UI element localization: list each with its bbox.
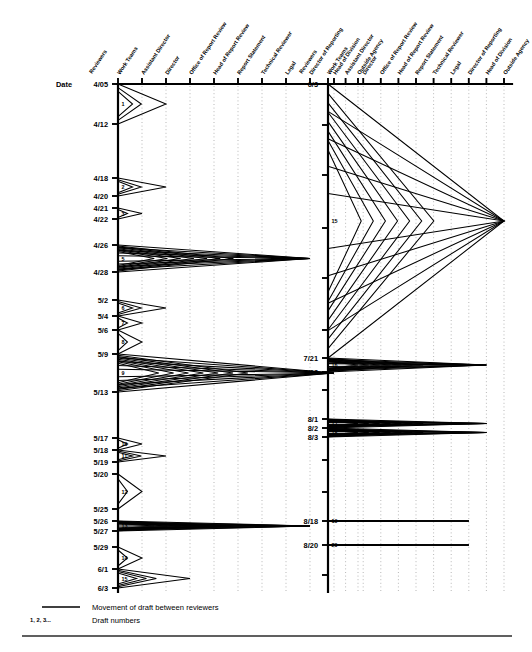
date-label: 6/1 [98,565,108,574]
draft-number-11: 11 [122,453,128,459]
chart-legend: Movement of draft between reviewers1, 2,… [22,603,512,636]
date-label: 6/3 [308,80,318,89]
column-header-work-teams: Work Teams [116,45,139,75]
column-header-director-of-reporting: Director of Reporting [467,26,503,76]
date-axis-title: Date [56,80,72,89]
draft-number-19: 19 [332,518,338,524]
date-label: 5/29 [94,543,108,552]
draft-number-12: 12 [122,489,128,495]
date-label: 5/4 [98,312,109,321]
date-label: 4/20 [94,192,108,201]
date-label: 5/17 [94,434,108,443]
date-label: 8/1 [308,415,318,424]
date-label: 5/2 [98,296,108,305]
date-label: 5/25 [94,505,108,514]
date-label: 8/18 [304,517,318,526]
draft-number-5: 5 [122,256,125,262]
date-label: 7/21 [304,354,318,363]
date-label: 8/20 [304,541,318,550]
figure-canvas: Work TeamsAssistant DirectorDirectorOffi… [0,0,532,652]
date-label: 5/9 [98,350,108,359]
date-label: 4/18 [94,174,108,183]
draft-number-13: 13 [122,523,128,529]
date-label: 5/13 [94,388,108,397]
draft-number-1: 1 [122,101,125,107]
date-label: 4/21 [94,204,108,213]
legend-numbers-swatch: 1, 2, 3... [30,617,51,623]
date-label: 7/23 [304,368,318,377]
column-header-legal: Legal [449,60,462,76]
draft-number-17: 17 [332,421,338,427]
draft-flow-inner [328,93,434,348]
draft-number-7: 7 [122,320,125,326]
draft-number-8: 8 [122,339,125,345]
panel-left: Work TeamsAssistant DirectorDirectorOffi… [56,20,385,592]
draft-number-2: 2 [122,184,125,190]
column-header-director: Director [164,54,181,76]
draft-number-16: 16 [332,362,338,368]
column-header-legal: Legal [284,60,297,76]
date-label: 5/6 [98,326,108,335]
date-label: 6/3 [98,584,108,593]
draft-movement-chart: Work TeamsAssistant DirectorDirectorOffi… [0,0,532,652]
date-label: 5/26 [94,517,108,526]
legend-numbers-label: Draft numbers [92,616,140,625]
draft-flow-inner [118,91,133,116]
column-header-technical-reviewer: Technical Reviewer [431,30,465,76]
date-label: 5/18 [94,446,108,455]
date-label: 4/05 [94,80,108,89]
draft-flow-spear [328,139,504,303]
date-label: 4/22 [94,215,108,224]
draft-number-3: 3 [122,211,125,217]
draft-flow-inner [328,103,422,339]
panel-right: Work TeamsAssistant DirectorDirectorOffi… [298,20,531,592]
draft-number-15: 15 [332,218,338,224]
draft-number-10: 10 [122,441,128,447]
draft-number-9: 9 [122,370,125,376]
draft-number-20: 20 [332,542,338,548]
date-label: 5/27 [94,527,108,536]
date-label: 4/12 [94,120,108,129]
date-label: 4/26 [94,241,108,250]
date-label: 5/19 [94,458,108,467]
date-label: 4/28 [94,268,108,277]
legend-line-label: Movement of draft between reviewers [92,603,219,612]
date-label: 8/3 [308,433,318,442]
reviewers-header: Reviewers [88,49,108,75]
draft-number-14: 14 [122,555,128,561]
draft-number-15: 15 [122,576,128,582]
draft-number-6: 6 [122,305,125,311]
draft-number-18: 18 [332,430,338,436]
date-label: 5/20 [94,470,108,479]
date-label: 8/2 [308,424,318,433]
draft-flow-inner [328,122,398,321]
